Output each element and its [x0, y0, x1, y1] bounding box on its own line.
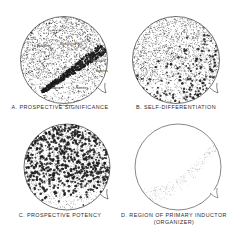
region-label-3: Notochord — [91, 59, 106, 63]
panel-b — [128, 14, 228, 106]
panel-a: EctodermMedullary PlateNotochordSomitesL… — [14, 14, 118, 106]
panel-a-illustration: EctodermMedullary PlateNotochordSomitesL… — [14, 14, 118, 106]
region-label-6: Somites — [76, 86, 88, 90]
caption-panel-b: B. SELF-DIFFERENTIATION — [120, 104, 232, 111]
panel-c-illustration — [18, 122, 120, 214]
panel-d-illustration — [130, 122, 230, 214]
caption-panel-d: D. REGION OF PRIMARY INDUCTOR (ORGANIZER… — [112, 212, 236, 226]
caption-a-line1: A. PROSPECTIVE SIGNIFICANCE — [12, 104, 109, 110]
caption-d-line1: D. REGION OF PRIMARY INDUCTOR — [121, 212, 227, 218]
region-label-1: Ectoderm — [37, 44, 51, 48]
fate-map-figure: EctodermMedullary PlateNotochordSomitesL… — [0, 0, 236, 244]
caption-c-line1: C. PROSPECTIVE POTENCY — [19, 212, 102, 218]
region-label-4: Somites — [96, 69, 108, 73]
panel-d — [130, 122, 230, 214]
region-label-5: Lat. Mesoderm — [39, 86, 61, 90]
disc-outline-d — [135, 124, 221, 210]
caption-d-line2: (ORGANIZER) — [112, 219, 236, 226]
caption-b-line1: B. SELF-DIFFERENTIATION — [136, 104, 216, 110]
caption-panel-c: C. PROSPECTIVE POTENCY — [4, 212, 116, 219]
panel-b-illustration — [128, 14, 228, 106]
panel-c — [18, 122, 120, 214]
region-label-2: Medullary Plate — [60, 42, 83, 46]
caption-panel-a: A. PROSPECTIVE SIGNIFICANCE — [4, 104, 116, 111]
